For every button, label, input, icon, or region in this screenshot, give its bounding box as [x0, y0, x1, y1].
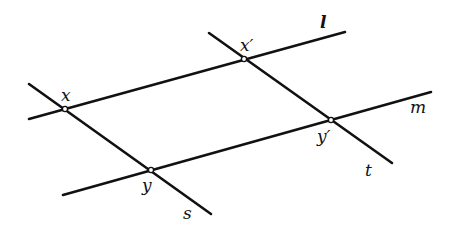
label-y: y: [141, 175, 152, 195]
label-x: x: [61, 85, 71, 105]
point-x: [62, 106, 67, 111]
label-y-prime: y′: [316, 126, 331, 146]
label-line-s: s: [183, 203, 192, 223]
line-m: [63, 92, 431, 195]
point-y: [148, 167, 153, 172]
label-line-t: t: [365, 160, 372, 180]
point-y-prime: [328, 117, 333, 122]
point-x-prime: [241, 56, 246, 61]
label-line-l: l: [320, 12, 327, 32]
label-x-prime: x′: [240, 35, 254, 55]
parallelogram-diagram: x x′ y′ y l m s t: [0, 0, 449, 235]
line-s: [29, 84, 211, 214]
line-l: [29, 32, 345, 119]
line-t: [209, 33, 392, 163]
label-line-m: m: [410, 97, 426, 117]
